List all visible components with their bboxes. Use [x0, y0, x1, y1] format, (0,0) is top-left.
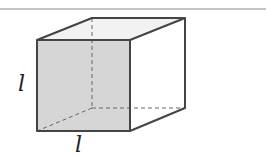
- width-label: l: [75, 132, 82, 156]
- front-face: [37, 40, 130, 131]
- height-label: l: [18, 71, 25, 96]
- cube-diagram: l l: [0, 0, 266, 156]
